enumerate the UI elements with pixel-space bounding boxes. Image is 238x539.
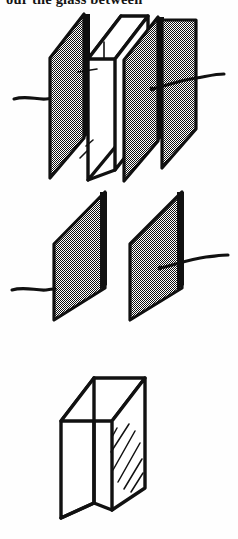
figure-page: our the glass between <box>0 0 238 539</box>
left-plate <box>50 14 84 178</box>
plates-only-left-wire <box>12 288 55 290</box>
figure-artwork <box>0 0 238 539</box>
right-plate-outer-face <box>162 20 196 168</box>
plates-only-left-plate-edge <box>100 192 107 290</box>
plates-only-right-plate-edge <box>177 192 184 290</box>
panel-assembled-capacitor <box>14 14 224 181</box>
glass-scratch-lower-b <box>80 151 87 158</box>
plates-only-left-plate <box>54 192 105 320</box>
panel-glass-slab-only <box>61 378 145 518</box>
plates-only-right-wire-contact-dot <box>158 266 163 271</box>
panel-plates-only <box>12 192 228 320</box>
right-wire-contact-dot <box>150 87 155 92</box>
plates-only-right-plate <box>130 192 182 320</box>
